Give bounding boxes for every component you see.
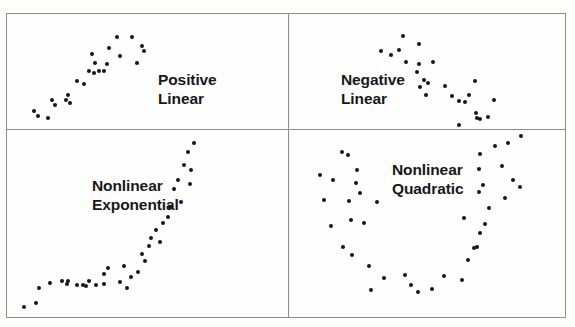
data-point [382,276,386,280]
data-point [318,173,322,177]
data-point [483,222,487,226]
data-point [487,206,491,210]
data-point [481,183,485,187]
data-point [97,69,101,73]
data-point [125,286,129,290]
data-point [511,178,515,182]
panel-label-line-2: Exponential [92,195,179,214]
data-point [188,182,192,186]
data-point [416,290,420,294]
data-point [431,60,435,64]
data-point [349,218,353,222]
data-point [106,266,110,270]
data-point [462,216,466,220]
data-point [60,279,64,283]
data-point [473,79,477,83]
data-point [129,275,133,279]
data-point [84,284,88,288]
data-point [179,200,183,204]
data-point [32,109,36,113]
data-point [329,224,333,228]
data-point [463,100,467,104]
data-point [149,236,153,240]
data-point [122,264,126,268]
data-point [118,54,122,58]
panel-negative-linear: Negative Linear [289,15,565,129]
data-point [457,123,461,127]
data-point [430,287,434,291]
data-point [389,53,393,57]
data-point [477,167,481,171]
data-point [82,82,86,86]
panel-label-positive-linear: Positive Linear [158,70,217,108]
data-point [143,259,147,263]
data-point [474,111,478,115]
panel-label-line-2: Quadratic [392,179,463,198]
panel-label-line-1: Positive [158,70,217,89]
data-point [53,103,57,107]
data-point [118,280,122,284]
data-point [347,199,351,203]
data-point [401,34,405,38]
data-point [367,264,371,268]
data-point [186,150,190,154]
data-point [130,35,134,39]
data-point [158,240,162,244]
data-point [341,245,345,249]
data-point [189,168,193,172]
data-point [478,152,482,156]
data-point [87,69,91,73]
data-point [68,101,72,105]
data-point [486,115,490,119]
data-point [478,231,482,235]
data-point [418,85,422,89]
panel-label-line-2: Linear [158,89,217,108]
data-point [404,60,408,64]
data-point [506,141,510,145]
data-point [442,274,446,278]
data-point [397,48,401,52]
data-point [417,62,421,66]
panel-label-negative-linear: Negative Linear [341,70,405,108]
data-point [467,93,471,97]
data-point [192,141,196,145]
data-point [102,272,106,276]
data-point [161,221,165,225]
data-point [369,288,373,292]
data-point [340,150,344,154]
data-point [379,49,383,53]
data-point [92,71,96,75]
data-point [331,178,335,182]
data-point [493,144,497,148]
data-point [142,49,146,53]
data-point [443,84,447,88]
data-point [478,117,482,121]
data-point [460,278,464,282]
data-point [140,44,144,48]
data-point [90,52,94,56]
data-point [426,81,430,85]
data-point [322,198,326,202]
data-point [102,69,106,73]
data-point [154,228,158,232]
data-point [50,98,54,102]
data-point [105,62,109,66]
data-point [415,70,419,74]
panel-label-line-1: Nonlinear [92,176,179,195]
data-point [500,164,504,168]
data-point [136,270,140,274]
panel-label-line-1: Negative [341,70,405,89]
data-point [107,46,111,50]
data-point [94,283,98,287]
panel-label-line-1: Nonlinear [392,160,463,179]
data-point [75,283,79,287]
data-point [362,221,366,225]
data-point [358,191,362,195]
data-point [518,185,522,189]
data-point [354,181,358,185]
data-point [355,168,359,172]
data-point [519,134,523,138]
panel-label-line-2: Linear [341,89,405,108]
data-point [22,305,26,309]
data-point [466,258,470,262]
